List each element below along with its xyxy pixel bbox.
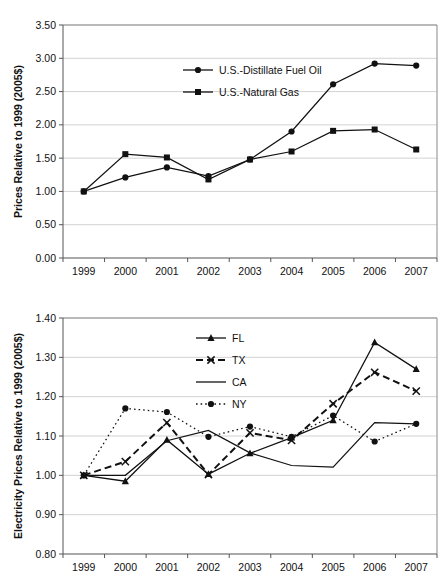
legend: U.S.-Distillate Fuel OilU.S.-Natural Gas bbox=[183, 64, 322, 98]
series-path-fl bbox=[84, 342, 416, 481]
data-point-tx bbox=[330, 400, 337, 407]
y-tick-label: 3.50 bbox=[36, 19, 57, 31]
series-ca bbox=[84, 423, 416, 476]
legend-marker bbox=[208, 401, 214, 407]
x-tick-label: 2006 bbox=[363, 561, 387, 573]
data-point-ny bbox=[413, 421, 419, 427]
y-tick-label: 1.10 bbox=[36, 430, 57, 442]
y-axis-ticks: 0.800.901.001.101.201.301.40 bbox=[36, 312, 63, 560]
data-point-u-s-natural-gas bbox=[413, 146, 419, 152]
legend-label: CA bbox=[232, 376, 247, 388]
series-group bbox=[80, 338, 420, 484]
legend-sample-ny bbox=[196, 401, 226, 407]
y-axis-title: Electricity Prices Relative to 1999 (200… bbox=[12, 333, 24, 539]
series-group bbox=[81, 61, 420, 195]
y-tick-label: 1.30 bbox=[36, 351, 57, 363]
series-u-s-distillate-fuel-oil bbox=[81, 61, 420, 195]
data-point-u-s-distillate-fuel-oil bbox=[330, 81, 336, 87]
data-point-ny bbox=[164, 409, 170, 415]
x-tick-label: 2003 bbox=[238, 561, 262, 573]
y-tick-label: 0.90 bbox=[36, 508, 57, 520]
data-point-u-s-natural-gas bbox=[372, 127, 378, 133]
x-tick-label: 2004 bbox=[280, 561, 304, 573]
x-tick-label: 1999 bbox=[72, 561, 96, 573]
x-tick-label: 2001 bbox=[155, 561, 179, 573]
x-tick-label: 2007 bbox=[405, 265, 429, 277]
data-point-tx bbox=[371, 369, 378, 376]
legend-label: U.S.-Natural Gas bbox=[219, 86, 299, 98]
chart-panel-top: 0.000.501.001.502.002.503.003.5019992000… bbox=[0, 0, 447, 293]
x-tick-label: 2005 bbox=[321, 265, 345, 277]
series-path-ca bbox=[84, 423, 416, 476]
x-tick-label: 2000 bbox=[114, 265, 138, 277]
legend-sample-u-s-distillate-fuel-oil bbox=[183, 67, 213, 73]
data-point-u-s-natural-gas bbox=[205, 176, 211, 182]
y-tick-label: 1.00 bbox=[36, 469, 57, 481]
data-point-u-s-natural-gas bbox=[330, 128, 336, 134]
data-point-u-s-distillate-fuel-oil bbox=[372, 61, 378, 67]
legend-marker bbox=[195, 67, 201, 73]
legend-label: FL bbox=[232, 332, 244, 344]
x-tick-label: 2004 bbox=[280, 265, 304, 277]
chart-panel-bottom: 0.800.901.001.101.201.301.40199920002001… bbox=[0, 293, 447, 586]
legend-label: NY bbox=[232, 398, 247, 410]
y-axis-ticks: 0.000.501.001.502.002.503.003.50 bbox=[36, 19, 63, 264]
x-tick-label: 2007 bbox=[405, 561, 429, 573]
x-tick-label: 1999 bbox=[72, 265, 96, 277]
x-tick-label: 2002 bbox=[197, 561, 221, 573]
gridlines bbox=[63, 318, 437, 515]
data-point-u-s-distillate-fuel-oil bbox=[288, 128, 294, 134]
data-point-u-s-natural-gas bbox=[247, 156, 253, 162]
x-tick-label: 2002 bbox=[197, 265, 221, 277]
legend: FLTXCANY bbox=[196, 332, 247, 410]
data-point-tx bbox=[246, 429, 253, 436]
data-point-u-s-distillate-fuel-oil bbox=[413, 63, 419, 69]
series-u-s-natural-gas bbox=[81, 127, 419, 195]
data-point-u-s-natural-gas bbox=[122, 151, 128, 157]
plot-frame bbox=[63, 25, 437, 258]
data-point-ny bbox=[372, 438, 378, 444]
series-ny bbox=[81, 405, 420, 478]
data-point-fl bbox=[413, 365, 420, 372]
data-point-u-s-natural-gas bbox=[289, 148, 295, 154]
data-point-fl bbox=[163, 436, 170, 443]
data-point-ny bbox=[330, 412, 336, 418]
y-tick-label: 0.80 bbox=[36, 548, 57, 560]
y-tick-label: 2.00 bbox=[36, 118, 57, 130]
data-point-tx bbox=[122, 458, 129, 465]
legend-sample-u-s-natural-gas bbox=[183, 89, 213, 95]
x-tick-label: 2000 bbox=[114, 561, 138, 573]
data-point-fl bbox=[371, 338, 378, 345]
data-point-u-s-natural-gas bbox=[164, 154, 170, 160]
data-point-ny bbox=[205, 434, 211, 440]
series-fl bbox=[80, 338, 420, 484]
y-tick-label: 0.00 bbox=[36, 252, 57, 264]
y-tick-label: 2.50 bbox=[36, 85, 57, 97]
data-point-ny bbox=[247, 423, 253, 429]
y-tick-label: 1.50 bbox=[36, 152, 57, 164]
legend-label: TX bbox=[232, 354, 245, 366]
x-tick-label: 2003 bbox=[238, 265, 262, 277]
y-tick-label: 3.00 bbox=[36, 52, 57, 64]
y-tick-label: 1.20 bbox=[36, 390, 57, 402]
y-tick-label: 0.50 bbox=[36, 218, 57, 230]
data-point-ny bbox=[81, 472, 87, 478]
data-point-ny bbox=[288, 434, 294, 440]
data-point-u-s-distillate-fuel-oil bbox=[122, 174, 128, 180]
data-point-tx bbox=[413, 388, 420, 395]
legend-sample-fl bbox=[196, 334, 226, 341]
legend-label: U.S.-Distillate Fuel Oil bbox=[219, 64, 322, 76]
x-tick-label: 2005 bbox=[321, 561, 345, 573]
x-axis-ticks: 199920002001200220032004200520062007 bbox=[63, 554, 437, 573]
data-point-u-s-natural-gas bbox=[81, 188, 87, 194]
y-tick-label: 1.00 bbox=[36, 185, 57, 197]
data-point-tx bbox=[163, 419, 170, 426]
line-chart-fuel-prices: 0.000.501.001.502.002.503.003.5019992000… bbox=[0, 0, 447, 293]
x-tick-label: 2006 bbox=[363, 265, 387, 277]
figure-container: 0.000.501.001.502.002.503.003.5019992000… bbox=[0, 0, 447, 586]
x-tick-label: 2001 bbox=[155, 265, 179, 277]
data-point-ny bbox=[122, 405, 128, 411]
y-axis-title: Prices Relative to 1999 (2005$) bbox=[12, 65, 24, 218]
series-path-u-s-distillate-fuel-oil bbox=[84, 64, 416, 192]
series-path-ny bbox=[84, 408, 416, 475]
